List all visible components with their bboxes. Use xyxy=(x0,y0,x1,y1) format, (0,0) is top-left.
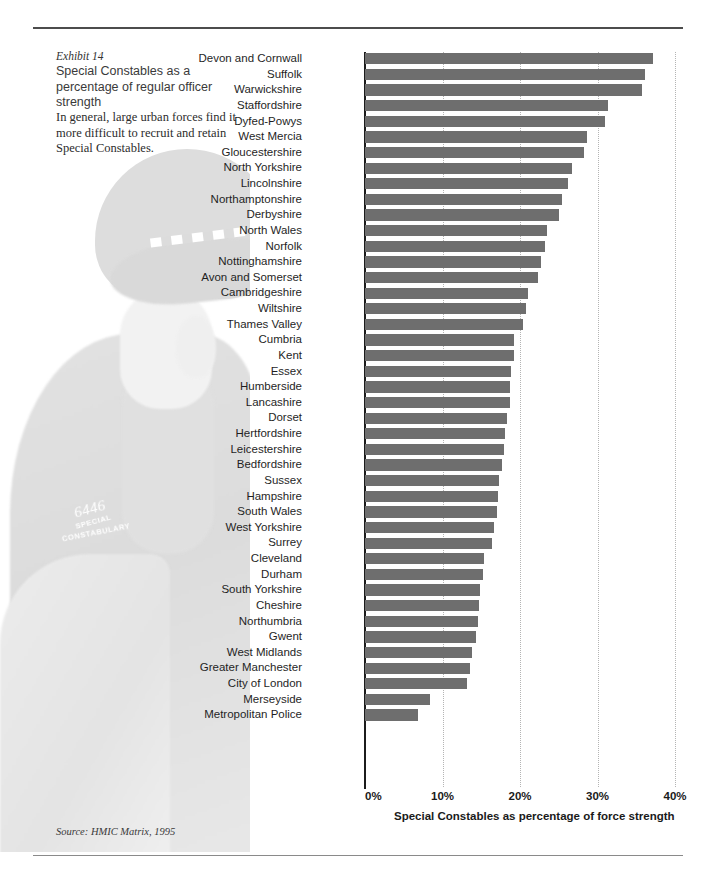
bar-row[interactable]: South Yorkshire xyxy=(365,583,675,599)
bar[interactable] xyxy=(365,334,514,345)
bar[interactable] xyxy=(365,350,514,361)
bar[interactable] xyxy=(365,178,568,189)
category-label: Derbyshire xyxy=(246,208,302,221)
bar[interactable] xyxy=(365,225,547,236)
bar-row[interactable]: Leicestershire xyxy=(365,443,675,459)
bar[interactable] xyxy=(365,428,505,439)
bar-row[interactable]: Warwickshire xyxy=(365,83,675,99)
bar[interactable] xyxy=(365,69,645,80)
bar-row[interactable]: Avon and Somerset xyxy=(365,271,675,287)
bar-row[interactable]: Kent xyxy=(365,349,675,365)
category-label: Thames Valley xyxy=(227,318,302,331)
bar[interactable] xyxy=(365,256,541,267)
bar-row[interactable]: Dyfed-Powys xyxy=(365,115,675,131)
bar-row[interactable]: Hertfordshire xyxy=(365,427,675,443)
bar[interactable] xyxy=(365,116,605,127)
bar-row[interactable]: Sussex xyxy=(365,474,675,490)
bar-row[interactable]: Devon and Cornwall xyxy=(365,52,675,68)
bar-row[interactable]: Northumbria xyxy=(365,615,675,631)
bar[interactable] xyxy=(365,100,608,111)
category-label: Lancashire xyxy=(246,396,302,409)
bar-row[interactable]: Essex xyxy=(365,365,675,381)
bar[interactable] xyxy=(365,209,559,220)
bar-row[interactable]: Cleveland xyxy=(365,552,675,568)
category-label: Bedfordshire xyxy=(237,458,302,471)
bar-row[interactable]: Thames Valley xyxy=(365,318,675,334)
category-label: West Yorkshire xyxy=(226,521,303,534)
bar[interactable] xyxy=(365,272,538,283)
bar-row[interactable]: Bedfordshire xyxy=(365,458,675,474)
bar[interactable] xyxy=(365,194,562,205)
bar-row[interactable]: Staffordshire xyxy=(365,99,675,115)
bar-row[interactable]: Wiltshire xyxy=(365,302,675,318)
bar[interactable] xyxy=(365,303,526,314)
category-label: Warwickshire xyxy=(234,83,302,96)
category-label: Merseyside xyxy=(243,693,302,706)
bar-row[interactable]: North Yorkshire xyxy=(365,161,675,177)
bar[interactable] xyxy=(365,553,484,564)
category-label: Dyfed-Powys xyxy=(234,115,302,128)
bar-row[interactable]: Northamptonshire xyxy=(365,193,675,209)
bar[interactable] xyxy=(365,366,511,377)
bar-row[interactable]: Greater Manchester xyxy=(365,661,675,677)
bar[interactable] xyxy=(365,241,545,252)
bar[interactable] xyxy=(365,647,472,658)
bar[interactable] xyxy=(365,709,418,720)
bar[interactable] xyxy=(365,678,467,689)
bar[interactable] xyxy=(365,413,507,424)
bar[interactable] xyxy=(365,584,480,595)
bar[interactable] xyxy=(365,600,479,611)
bar[interactable] xyxy=(365,459,502,470)
bar[interactable] xyxy=(365,147,584,158)
bar-row[interactable]: Cumbria xyxy=(365,333,675,349)
category-label: South Yorkshire xyxy=(221,583,302,596)
bar-row[interactable]: Nottinghamshire xyxy=(365,255,675,271)
bar-row[interactable]: West Yorkshire xyxy=(365,521,675,537)
bar[interactable] xyxy=(365,538,492,549)
bar-row[interactable]: Norfolk xyxy=(365,240,675,256)
bar[interactable] xyxy=(365,397,510,408)
bar-row[interactable]: Hampshire xyxy=(365,490,675,506)
bar-row[interactable]: Dorset xyxy=(365,411,675,427)
bar-row[interactable]: Metropolitan Police xyxy=(365,708,675,724)
bar-row[interactable]: Surrey xyxy=(365,536,675,552)
category-label: Kent xyxy=(278,349,302,362)
bar-row[interactable]: West Midlands xyxy=(365,646,675,662)
bar-row[interactable]: Gwent xyxy=(365,630,675,646)
bar[interactable] xyxy=(365,444,504,455)
bar[interactable] xyxy=(365,616,478,627)
bar-row[interactable]: North Wales xyxy=(365,224,675,240)
bar-row[interactable]: Lincolnshire xyxy=(365,177,675,193)
bar[interactable] xyxy=(365,475,499,486)
category-label: Wiltshire xyxy=(258,302,302,315)
bar-row[interactable]: Lancashire xyxy=(365,396,675,412)
bar[interactable] xyxy=(365,319,523,330)
bar[interactable] xyxy=(365,522,494,533)
bar[interactable] xyxy=(365,631,476,642)
bar[interactable] xyxy=(365,663,470,674)
bar-row[interactable]: Merseyside xyxy=(365,693,675,709)
category-label: North Wales xyxy=(239,224,302,237)
bar-row[interactable]: Humberside xyxy=(365,380,675,396)
bar[interactable] xyxy=(365,694,430,705)
bar[interactable] xyxy=(365,131,587,142)
bar[interactable] xyxy=(365,506,497,517)
bar-row[interactable]: West Mercia xyxy=(365,130,675,146)
bar[interactable] xyxy=(365,491,498,502)
bar-row[interactable]: Gloucestershire xyxy=(365,146,675,162)
category-label: Suffolk xyxy=(267,68,302,81)
bar[interactable] xyxy=(365,381,510,392)
bar[interactable] xyxy=(365,53,653,64)
bar[interactable] xyxy=(365,288,528,299)
category-label: Hertfordshire xyxy=(236,427,302,440)
bar[interactable] xyxy=(365,163,572,174)
bar[interactable] xyxy=(365,569,483,580)
bar-row[interactable]: Derbyshire xyxy=(365,208,675,224)
bar[interactable] xyxy=(365,84,642,95)
bar-row[interactable]: Cheshire xyxy=(365,599,675,615)
bar-row[interactable]: Durham xyxy=(365,568,675,584)
bar-row[interactable]: City of London xyxy=(365,677,675,693)
bar-row[interactable]: Cambridgeshire xyxy=(365,286,675,302)
bar-row[interactable]: South Wales xyxy=(365,505,675,521)
bar-row[interactable]: Suffolk xyxy=(365,68,675,84)
